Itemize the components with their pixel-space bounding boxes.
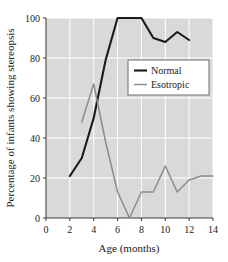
x-axis-tick-label: 8 [139,224,144,235]
y-axis-tick-label: 80 [30,53,40,64]
legend-label-esotropic: Esotropic [151,79,190,90]
x-axis-tick-label: 12 [184,224,194,235]
y-axis-tick-label: 60 [30,93,40,104]
chart-legend: NormalEsotropic [128,60,209,95]
x-axis-title: Age (months) [99,242,160,255]
y-axis-tick-label: 20 [30,173,40,184]
y-axis-title: Percentage of infants showing stereopsis [4,28,16,207]
y-axis-tick-label: 40 [30,133,40,144]
x-axis-tick-label: 0 [44,224,49,235]
stereopsis-line-chart: 020406080100 02468101214 Age (months) Pe… [0,0,228,262]
x-axis-tick-label: 14 [208,224,218,235]
legend-label-normal: Normal [151,65,182,76]
y-axis-tick-label: 100 [25,13,40,24]
plot-area-background [46,18,213,218]
chart-figure: 020406080100 02468101214 Age (months) Pe… [0,0,228,262]
x-axis-tick-label: 2 [67,224,72,235]
x-axis-tick-label: 10 [160,224,170,235]
y-axis-tick-label: 0 [35,213,40,224]
x-axis-tick-label: 6 [115,224,120,235]
x-axis-tick-label: 4 [91,224,96,235]
